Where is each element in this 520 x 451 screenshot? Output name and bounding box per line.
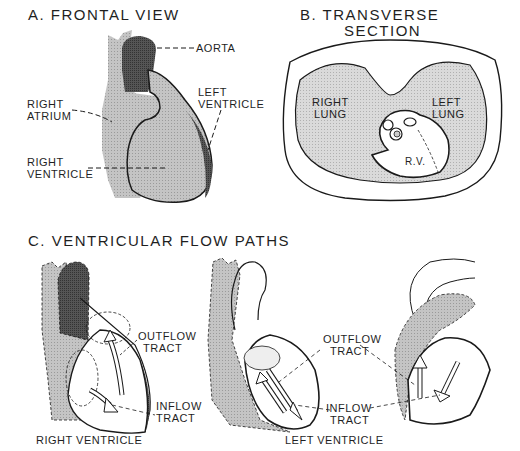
rv-inflow-label-2: TRACT — [156, 412, 195, 424]
label-right-atrium-1: RIGHT — [27, 98, 64, 110]
rv-inflow-label-1: INFLOW — [156, 400, 202, 412]
label-right-lung-2: LUNG — [314, 108, 347, 120]
frontal-view-heart — [72, 30, 221, 202]
left-ventricle-flow-frontal — [208, 258, 319, 432]
caption-right-ventricle: RIGHT VENTRICLE — [36, 434, 142, 446]
rv-outflow-label-2: TRACT — [143, 342, 182, 354]
label-right-lung-1: RIGHT — [312, 96, 349, 108]
lv-inflow-label-2: TRACT — [330, 414, 369, 426]
left-ventricle-flow-lateral — [395, 259, 490, 424]
label-left-ventricle-1: LEFT — [198, 86, 227, 98]
label-right-atrium-2: ATRIUM — [27, 110, 71, 122]
label-rv: R.V. — [405, 156, 426, 168]
rv-outflow-label-1: OUTFLOW — [138, 330, 197, 342]
lv-inflow-label-1: INFLOW — [326, 402, 372, 414]
label-left-ventricle-2: VENTRICLE — [198, 98, 264, 110]
panel-a-title: A. FRONTAL VIEW — [28, 6, 180, 23]
right-ventricle-flow — [42, 262, 155, 433]
panel-b-title-line1: B. TRANSVERSE — [300, 6, 439, 23]
label-right-ventricle-1: RIGHT — [27, 156, 64, 168]
label-aorta: AORTA — [196, 42, 235, 54]
caption-left-ventricle: LEFT VENTRICLE — [285, 434, 384, 446]
heart-diagram — [0, 0, 520, 451]
label-right-ventricle-2: VENTRICLE — [27, 168, 93, 180]
label-left-lung-2: LUNG — [432, 108, 465, 120]
panel-c-title: C. VENTRICULAR FLOW PATHS — [28, 232, 290, 249]
label-left-lung-1: LEFT — [432, 96, 461, 108]
lv-outflow-label-1: OUTFLOW — [323, 333, 382, 345]
lv-outflow-label-2: TRACT — [330, 345, 369, 357]
transverse-section — [283, 40, 501, 201]
panel-b-title-line2: SECTION — [344, 22, 421, 39]
